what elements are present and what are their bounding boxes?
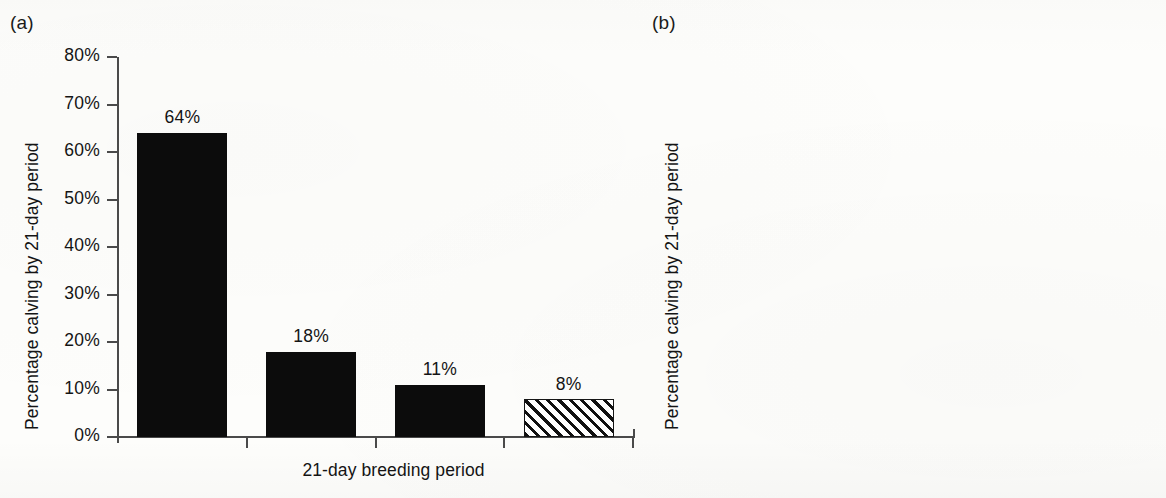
panel-a-y-tick [107, 151, 117, 153]
panel-a-y-axis-line [117, 57, 119, 438]
panel-a-x-axis-end-tick [633, 429, 635, 438]
panel-a-y-tick-label: 40% [44, 235, 100, 256]
figure-two-panel-bar-charts: (a) Percentage calving by 21-day period … [0, 0, 1166, 498]
panel-a-bar-value-label: 8% [556, 374, 582, 395]
panel-a-x-tick [246, 437, 248, 448]
panel-a-bar: 18% [266, 352, 356, 438]
panel-a-x-axis-origin-tick [117, 431, 119, 443]
panel-a-y-tick-label: 20% [44, 330, 100, 351]
panel-a-x-tick [632, 437, 634, 448]
panel-a-x-axis-title: 21-day breeding period [136, 460, 651, 481]
panel-a-y-tick-label: 0% [44, 425, 100, 446]
panel-a-x-tick [503, 437, 505, 448]
panel-b-y-axis-title: Percentage calving by 21-day period [662, 142, 683, 430]
panel-a-y-tick [107, 56, 117, 58]
panel-a-y-tick [107, 341, 117, 343]
panel-b-letter: (b) [652, 12, 676, 34]
panel-a-bar-value-label: 18% [293, 326, 329, 347]
panel-a-y-tick-label: 50% [44, 188, 100, 209]
panel-a-y-tick [107, 104, 117, 106]
panel-a-y-tick-label: 30% [44, 283, 100, 304]
panel-a-y-tick-label: 70% [44, 93, 100, 114]
panel-a-bar-value-label: 11% [423, 359, 457, 380]
panel-a-bar: 11% [395, 385, 485, 437]
panel-a-letter: (a) [10, 12, 34, 34]
panel-a-y-tick [107, 199, 117, 201]
panel-a-y-axis-title: Percentage calving by 21-day period [22, 142, 43, 430]
panel-a: (a) Percentage calving by 21-day period … [0, 0, 648, 498]
panel-a-bar: 64% [137, 133, 227, 437]
panel-b: (b) Percentage calving by 21-day period … [640, 0, 1166, 498]
panel-a-y-tick-label: 60% [44, 140, 100, 161]
panel-a-y-tick [107, 294, 117, 296]
panel-a-plot-area: 21-day breeding period 80%70%60%50%40%30… [118, 57, 633, 437]
panel-a-y-tick-label: 10% [44, 378, 100, 399]
panel-a-bar: 8% [524, 399, 614, 437]
panel-a-y-tick-label: 80% [44, 45, 100, 66]
panel-a-bar-value-label: 64% [165, 107, 201, 128]
panel-a-x-tick [375, 437, 377, 448]
panel-a-y-tick [107, 246, 117, 248]
panel-a-y-tick [107, 389, 117, 391]
panel-a-y-tick [107, 436, 117, 438]
